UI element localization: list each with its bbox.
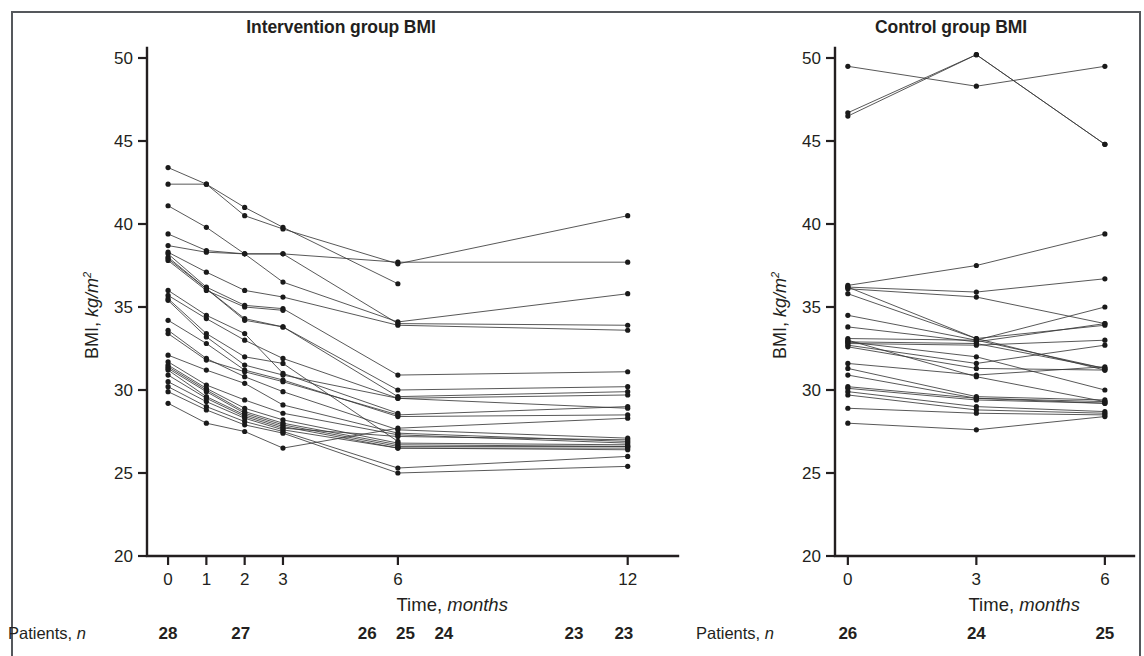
y-tick-label: 35 [114, 298, 133, 317]
data-point-marker [165, 367, 170, 372]
patient-trajectory-line [168, 234, 628, 322]
data-point-marker [165, 372, 170, 377]
patients-n-count: 25 [1090, 624, 1120, 644]
data-point-marker [204, 288, 209, 293]
data-point-marker [625, 447, 630, 452]
x-axis-label-prefix: Time, [397, 594, 448, 615]
patients-n-count: 26 [352, 624, 382, 644]
data-point-marker [280, 308, 285, 313]
data-point-marker [1102, 276, 1107, 281]
data-point-marker [242, 331, 247, 336]
x-tick-label: 12 [618, 570, 637, 589]
data-point-marker [165, 353, 170, 358]
data-point-marker [625, 328, 630, 333]
y-tick-label: 25 [802, 464, 821, 483]
data-point-marker [280, 324, 285, 329]
patient-trajectory-line [168, 295, 628, 398]
data-point-marker [1102, 142, 1107, 147]
x-tick-label: 6 [1100, 570, 1109, 589]
data-point-marker [165, 384, 170, 389]
data-point-marker [165, 182, 170, 187]
data-point-marker [280, 411, 285, 416]
data-point-marker [165, 296, 170, 301]
data-point-marker [242, 397, 247, 402]
data-point-marker [280, 389, 285, 394]
data-point-marker [845, 339, 850, 344]
data-point-marker [204, 225, 209, 230]
data-point-marker [395, 281, 400, 286]
patient-trajectory-line [168, 261, 283, 311]
data-point-marker [845, 372, 850, 377]
data-point-marker [845, 366, 850, 371]
data-point-marker [165, 165, 170, 170]
patients-n-count: 26 [833, 624, 863, 644]
data-point-marker [1102, 399, 1107, 404]
data-point-marker [395, 396, 400, 401]
data-point-marker [1102, 338, 1107, 343]
data-point-marker [974, 374, 979, 379]
data-point-marker [1102, 231, 1107, 236]
data-point-marker [974, 294, 979, 299]
data-point-marker [395, 446, 400, 451]
data-point-marker [974, 354, 979, 359]
data-point-marker [625, 416, 630, 421]
data-point-marker [1102, 321, 1107, 326]
x-tick-label: 3 [972, 570, 981, 589]
data-point-marker [845, 64, 850, 69]
data-point-marker [204, 182, 209, 187]
data-point-marker [625, 392, 630, 397]
data-point-marker [845, 344, 850, 349]
x-tick-label: 3 [278, 570, 287, 589]
data-point-marker [845, 114, 850, 119]
patients-n-prefix: Patients, [696, 624, 765, 642]
data-point-marker [204, 341, 209, 346]
data-point-marker [974, 397, 979, 402]
data-point-marker [280, 294, 285, 299]
data-point-marker [204, 407, 209, 412]
data-point-marker [165, 258, 170, 263]
data-point-marker [280, 371, 285, 376]
patient-trajectory-line [848, 234, 1105, 285]
y-tick-label: 25 [114, 464, 133, 483]
data-point-marker [395, 372, 400, 377]
x-axis-label-unit: months [447, 594, 508, 615]
data-point-marker [974, 411, 979, 416]
plot-area-intervention: 202530354045500123612 [0, 0, 722, 600]
data-point-marker [845, 324, 850, 329]
data-point-marker [242, 422, 247, 427]
x-tick-label: 0 [163, 570, 172, 589]
patients-n-count: 25 [391, 624, 421, 644]
data-point-marker [395, 387, 400, 392]
x-tick-label: 6 [393, 570, 402, 589]
patients-n-label-intervention: Patients, n [8, 624, 86, 643]
data-point-marker [280, 251, 285, 256]
data-point-marker [242, 318, 247, 323]
data-point-marker [204, 421, 209, 426]
data-point-marker [204, 250, 209, 255]
y-tick-label: 45 [802, 132, 821, 151]
patients-n-prefix: Patients, [8, 624, 77, 642]
data-point-marker [242, 354, 247, 359]
data-point-marker [395, 465, 400, 470]
data-point-marker [242, 338, 247, 343]
data-point-marker [625, 404, 630, 409]
data-point-marker [845, 421, 850, 426]
data-point-marker [242, 288, 247, 293]
data-point-marker [974, 84, 979, 89]
y-tick-label: 20 [114, 547, 133, 566]
data-point-marker [845, 392, 850, 397]
x-axis-label-unit: months [1019, 594, 1080, 615]
data-point-marker [204, 367, 209, 372]
patient-trajectory-line [168, 320, 628, 416]
patient-trajectory-line [848, 55, 1105, 145]
data-point-marker [242, 429, 247, 434]
data-point-marker [845, 313, 850, 318]
data-point-marker [165, 231, 170, 236]
data-point-marker [625, 213, 630, 218]
patients-n-count: 23 [559, 624, 589, 644]
patient-trajectory-line [848, 66, 1105, 86]
data-point-marker [242, 381, 247, 386]
data-point-marker [395, 323, 400, 328]
panel-intervention: Intervention group BMI BMI, kg/m2 202530… [0, 0, 722, 643]
